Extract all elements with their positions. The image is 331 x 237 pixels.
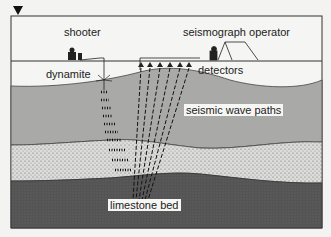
label-seismograph-operator: seismograph operator bbox=[183, 26, 290, 38]
down-triangle-icon bbox=[13, 6, 23, 15]
label-detectors: detectors bbox=[198, 64, 243, 76]
label-limestone-bed: limestone bed bbox=[108, 199, 181, 211]
label-shooter: shooter bbox=[64, 26, 101, 38]
label-seismic-wave-paths: seismic wave paths bbox=[184, 104, 283, 116]
label-dynamite: dynamite bbox=[46, 68, 91, 80]
